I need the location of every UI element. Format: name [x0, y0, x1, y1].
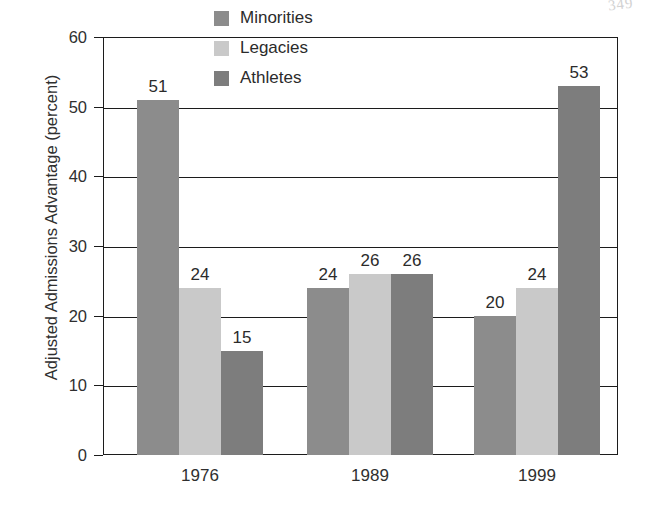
bar-value-label: 53 [552, 63, 606, 83]
legend-swatch-icon [214, 71, 229, 86]
y-axis-tick-mark [94, 107, 103, 108]
x-axis-tick-label: 1989 [351, 466, 389, 486]
legend-item-minorities: Minorities [214, 6, 316, 30]
bar [221, 351, 263, 456]
x-axis-tick-label: 1976 [181, 466, 219, 486]
y-axis-tick-mark [94, 246, 103, 247]
x-axis-tick-label: 1999 [518, 466, 556, 486]
y-axis-tick-mark [94, 316, 103, 317]
legend-label: Minorities [240, 8, 316, 28]
legend-label: Legacies [240, 38, 311, 58]
bar [474, 316, 516, 455]
y-axis-tick-label: 20 [41, 306, 87, 325]
scan-page-number-artifact: 349 [607, 0, 634, 14]
bar [179, 288, 221, 455]
bar-value-label: 15 [215, 328, 269, 348]
bar [307, 288, 349, 455]
y-axis-tick-labels: 0102030405060 [0, 37, 97, 455]
bar-value-label: 20 [468, 293, 522, 313]
y-axis-tick-label: 40 [41, 167, 87, 186]
legend-item-athletes: Athletes [214, 66, 316, 90]
y-axis-tick-label: 10 [41, 376, 87, 395]
legend-item-legacies: Legacies [214, 36, 316, 60]
y-axis-tick-label: 60 [41, 28, 87, 47]
bar-chart-figure: 349 Adjusted Admissions Advantage (perce… [0, 0, 651, 524]
y-axis-tick-label: 30 [41, 237, 87, 256]
bars-layer: 512415242626202453 [103, 37, 618, 455]
bar-value-label: 26 [385, 251, 439, 271]
bar-value-label: 24 [510, 265, 564, 285]
bar [516, 288, 558, 455]
y-axis-tick-label: 50 [41, 97, 87, 116]
bar [558, 86, 600, 455]
y-axis-tick-mark [94, 37, 103, 38]
y-axis-tick-label: 0 [41, 446, 87, 465]
bar-value-label: 24 [173, 265, 227, 285]
legend-swatch-icon [214, 11, 229, 26]
y-axis-tick-mark [94, 455, 103, 456]
y-axis-tick-mark [94, 176, 103, 177]
chart-legend: MinoritiesLegaciesAthletes [214, 6, 316, 90]
legend-swatch-icon [214, 41, 229, 56]
bar [391, 274, 433, 455]
bar [349, 274, 391, 455]
bar-value-label: 51 [131, 77, 185, 97]
x-axis-tick-labels: 197619891999 [103, 466, 618, 496]
y-axis-tick-mark [94, 385, 103, 386]
legend-label: Athletes [240, 68, 304, 88]
